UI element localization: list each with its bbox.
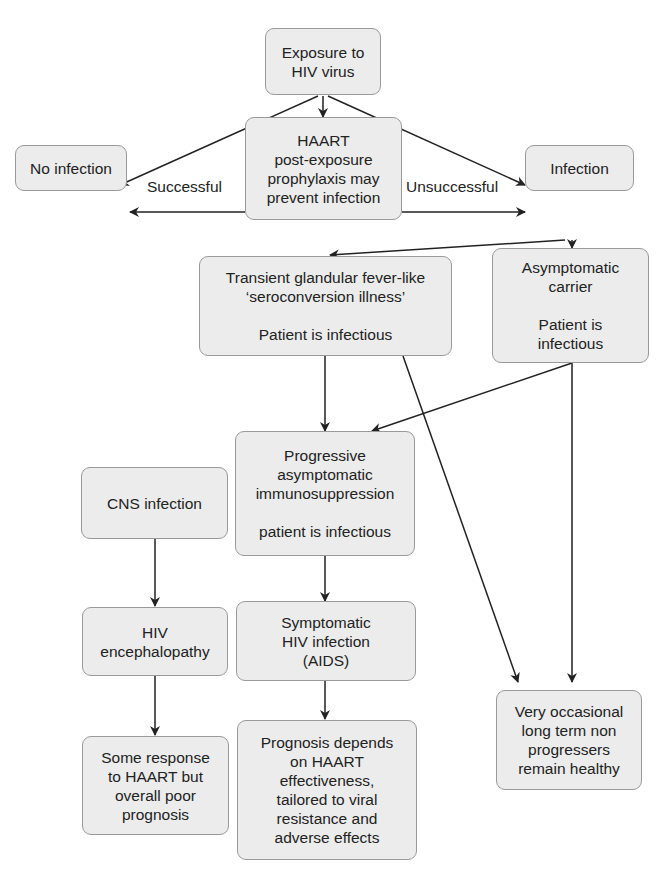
node-carrier: Asymptomatic carrier Patient is infectio… bbox=[492, 248, 649, 363]
label-successful: Successful bbox=[147, 178, 222, 196]
node-infection: Infection bbox=[525, 145, 634, 191]
node-progressive: Progressive asymptomatic immunosuppressi… bbox=[235, 431, 415, 556]
node-poor-prognosis: Some response to HAART but overall poor … bbox=[82, 736, 229, 835]
node-exposure: Exposure to HIV virus bbox=[265, 28, 381, 95]
node-haart: HAART post-exposure prophylaxis may prev… bbox=[245, 117, 402, 220]
node-encephalopathy: HIV encephalopathy bbox=[82, 607, 228, 676]
node-no-infection: No infection bbox=[15, 145, 127, 191]
hiv-flowchart: Exposure to HIV virus HAART post-exposur… bbox=[0, 0, 659, 872]
node-cns: CNS infection bbox=[81, 467, 228, 539]
node-aids: Symptomatic HIV infection (AIDS) bbox=[236, 601, 416, 681]
node-seroconversion: Transient glandular fever-like ‘seroconv… bbox=[199, 256, 452, 356]
label-unsuccessful: Unsuccessful bbox=[406, 178, 498, 196]
node-non-progressors: Very occasional long term non progresser… bbox=[496, 690, 642, 790]
node-prognosis: Prognosis depends on HAART effectiveness… bbox=[237, 720, 417, 860]
